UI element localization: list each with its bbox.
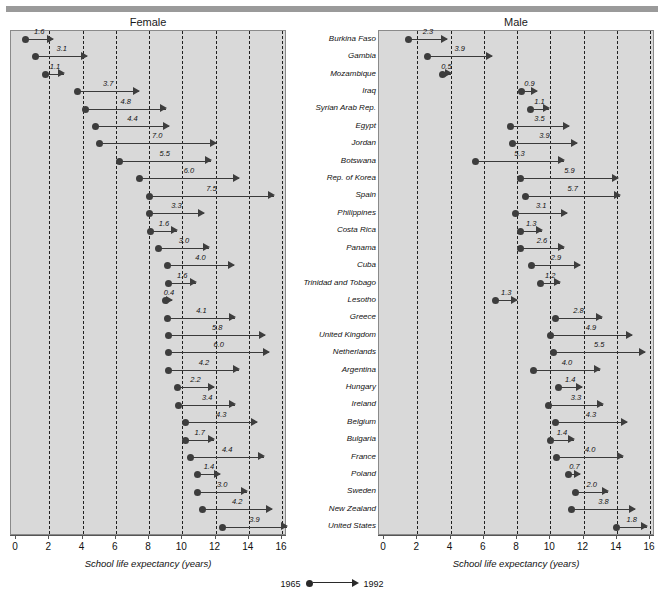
legend: 19651992 (0, 578, 664, 589)
end-year-arrow-icon (259, 331, 266, 339)
change-value-label: 1.2 (545, 271, 555, 280)
chart-row: 4.4 (11, 118, 285, 135)
chart-row: 4.3 (379, 414, 653, 431)
end-year-arrow-icon (626, 331, 633, 339)
end-year-arrow-icon (594, 365, 601, 373)
chart-row: 3.0 (11, 484, 285, 501)
chart-row: 5.8 (11, 327, 285, 344)
axis-tick (281, 535, 282, 539)
chart-row: 4.2 (11, 501, 285, 518)
end-year-arrow-icon (233, 365, 240, 373)
end-year-arrow-icon (251, 418, 258, 426)
start-year-dot (164, 262, 171, 269)
change-value-label: 3.1 (57, 44, 67, 53)
start-year-dot (165, 349, 172, 356)
end-year-arrow-icon (163, 122, 170, 130)
start-year-dot (146, 193, 153, 200)
chart-row: 5.5 (379, 344, 653, 361)
change-value-label: 2.0 (587, 480, 597, 489)
end-year-arrow-icon (597, 400, 604, 408)
chart-row: 0.4 (11, 292, 285, 309)
start-year-dot (165, 367, 172, 374)
end-year-arrow-icon (629, 505, 636, 513)
change-connector-line (169, 335, 265, 336)
chart-row: 3.3 (379, 397, 653, 414)
axis-tick-label: 14 (242, 541, 253, 552)
axis-tick (649, 535, 650, 539)
start-year-dot (165, 332, 172, 339)
chart-row: 5.7 (379, 188, 653, 205)
start-year-dot (32, 53, 39, 60)
change-connector-line (532, 265, 580, 266)
end-year-arrow-icon (160, 104, 167, 112)
end-year-arrow-icon (621, 418, 628, 426)
chart-row: 1.3 (379, 223, 653, 240)
end-year-arrow-icon (47, 35, 54, 43)
end-year-arrow-icon (266, 505, 273, 513)
chart-row: 0.5 (379, 66, 653, 83)
change-value-label: 5.7 (567, 184, 577, 193)
chart-row: 4.3 (11, 414, 285, 431)
change-connector-line (475, 161, 563, 162)
end-year-arrow-icon (596, 313, 603, 321)
axis-tick-label: 12 (577, 541, 588, 552)
start-year-dot (182, 437, 189, 444)
end-year-arrow-icon (214, 470, 221, 478)
start-year-dot (550, 349, 557, 356)
change-value-label: 5.5 (160, 149, 170, 158)
start-year-dot (512, 210, 519, 217)
change-value-label: 1.4 (557, 428, 567, 437)
change-value-label: 4.9 (586, 323, 596, 332)
change-connector-line (222, 527, 287, 528)
change-value-label: 5.8 (212, 323, 222, 332)
start-year-dot (146, 210, 153, 217)
chart-row: 1.4 (11, 466, 285, 483)
start-year-dot (175, 402, 182, 409)
change-value-label: 4.8 (121, 97, 131, 106)
start-year-dot (518, 88, 525, 95)
end-year-arrow-icon (617, 452, 624, 460)
change-connector-line (512, 143, 577, 144)
end-year-arrow-icon (233, 174, 240, 182)
change-connector-line (186, 422, 257, 423)
start-year-dot (96, 140, 103, 147)
country-label: Greece (288, 312, 376, 321)
end-year-arrow-icon (641, 522, 648, 530)
end-year-arrow-icon (171, 226, 178, 234)
country-label: Jordan (288, 138, 376, 147)
legend-line (313, 582, 353, 583)
chart-row: 2.6 (379, 240, 653, 257)
change-connector-line (549, 405, 604, 406)
chart-row: 6.0 (11, 344, 285, 361)
start-year-dot (572, 489, 579, 496)
chart-row: 4.2 (11, 362, 285, 379)
chart-row: 4.0 (379, 362, 653, 379)
start-year-dot (528, 262, 535, 269)
change-value-label: 0.4 (164, 288, 174, 297)
chart-row: 1.8 (379, 519, 653, 536)
axis-tick (215, 535, 216, 539)
change-value-label: 2.2 (190, 375, 200, 384)
chart-row: 1.3 (379, 292, 653, 309)
start-year-dot (42, 71, 49, 78)
change-connector-line (525, 196, 620, 197)
change-connector-line (534, 370, 601, 371)
start-year-dot (492, 297, 499, 304)
change-connector-line (167, 265, 234, 266)
change-value-label: 4.4 (127, 114, 137, 123)
end-year-arrow-icon (268, 191, 275, 199)
change-value-label: 1.6 (34, 27, 44, 36)
end-year-arrow-icon (441, 35, 448, 43)
axis-tick (549, 535, 550, 539)
start-year-dot (522, 193, 529, 200)
change-connector-line (550, 335, 631, 336)
chart-row: 2.8 (379, 310, 653, 327)
axis-tick-label: 0 (12, 541, 18, 552)
change-value-label: 1.3 (526, 219, 536, 228)
end-year-arrow-icon (241, 487, 248, 495)
start-year-dot (136, 175, 143, 182)
axis-tick (148, 535, 149, 539)
end-year-arrow-icon (536, 226, 543, 234)
country-label: Trinidad and Tobago (288, 278, 376, 287)
country-label: Botswana (288, 156, 376, 165)
